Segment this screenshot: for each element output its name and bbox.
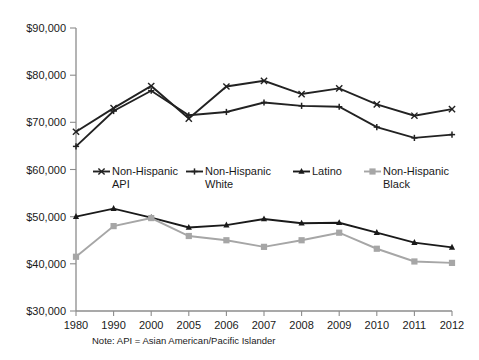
series-latino xyxy=(73,205,455,250)
footnote-text: Note: API = Asian American/Pacific Islan… xyxy=(92,335,276,346)
data-point-marker xyxy=(369,168,375,174)
data-point-marker xyxy=(299,237,305,243)
data-point-marker xyxy=(261,99,267,105)
x-tick-label: 2000 xyxy=(139,319,163,331)
y-tick-label: $70,000 xyxy=(26,116,66,128)
legend-item-non-hispanic-black[interactable]: Non-HispanicBlack xyxy=(364,165,450,190)
data-point-marker xyxy=(186,233,192,239)
legend-label: Non-Hispanic xyxy=(205,165,272,177)
series-non-hispanic-white xyxy=(73,88,455,150)
x-tick-label: 2007 xyxy=(252,319,276,331)
data-point-marker xyxy=(73,254,79,260)
y-axis-ticks xyxy=(70,28,76,311)
data-point-marker xyxy=(299,103,305,109)
x-tick-label: 2009 xyxy=(327,319,351,331)
x-tick-label: 2006 xyxy=(214,319,238,331)
series-line xyxy=(76,209,452,248)
chart-legend: Non-HispanicAPINon-HispanicWhiteLatinoNo… xyxy=(93,165,450,190)
x-tick-label: 2012 xyxy=(440,319,464,331)
data-point-marker xyxy=(191,168,197,174)
data-point-marker xyxy=(374,246,380,252)
series-line xyxy=(76,81,452,132)
data-point-marker xyxy=(223,237,229,243)
legend-label: Non-Hispanic xyxy=(383,165,450,177)
legend-item-latino[interactable]: Latino xyxy=(293,165,342,177)
y-tick-label: $80,000 xyxy=(26,69,66,81)
legend-label-line2: Black xyxy=(383,178,410,190)
y-tick-label: $60,000 xyxy=(26,164,66,176)
x-axis-ticks xyxy=(76,311,452,316)
legend-label: Latino xyxy=(312,165,342,177)
data-point-marker xyxy=(111,205,117,211)
data-point-marker xyxy=(411,135,417,141)
x-axis-tick-labels: 1980199020002005200620072008200920102011… xyxy=(64,319,464,331)
line-chart: $90,000 $80,000 $70,000 $60,000 $50,000 … xyxy=(0,0,479,360)
x-tick-label: 1990 xyxy=(101,319,125,331)
legend-label-line2: API xyxy=(112,178,130,190)
x-tick-label: 2010 xyxy=(365,319,389,331)
x-tick-label: 1980 xyxy=(64,319,88,331)
legend-item-non-hispanic-api[interactable]: Non-HispanicAPI xyxy=(93,165,179,190)
data-point-marker xyxy=(111,223,117,229)
chart-container: $90,000 $80,000 $70,000 $60,000 $50,000 … xyxy=(0,0,479,360)
data-point-marker xyxy=(148,215,154,221)
data-point-marker xyxy=(449,260,455,266)
series-line xyxy=(76,218,452,263)
series-line xyxy=(76,91,452,147)
y-tick-label: $40,000 xyxy=(26,258,66,270)
legend-label: Non-Hispanic xyxy=(112,165,179,177)
data-point-marker xyxy=(223,109,229,115)
data-point-marker xyxy=(336,230,342,236)
y-tick-label: $30,000 xyxy=(26,305,66,317)
y-axis-tick-labels: $90,000 $80,000 $70,000 $60,000 $50,000 … xyxy=(26,22,66,317)
legend-item-non-hispanic-white[interactable]: Non-HispanicWhite xyxy=(186,165,272,190)
legend-label-line2: White xyxy=(205,178,233,190)
data-point-marker xyxy=(261,244,267,250)
y-tick-label: $90,000 xyxy=(26,22,66,34)
x-tick-label: 2011 xyxy=(403,319,427,331)
x-tick-label: 2008 xyxy=(289,319,313,331)
y-tick-label: $50,000 xyxy=(26,211,66,223)
data-point-marker xyxy=(449,131,455,137)
data-point-marker xyxy=(411,258,417,264)
series-non-hispanic-api xyxy=(73,78,455,135)
series-non-hispanic-black xyxy=(73,215,455,266)
x-tick-label: 2005 xyxy=(177,319,201,331)
